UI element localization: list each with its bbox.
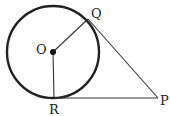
- label-q: Q: [91, 6, 102, 21]
- center-point: [50, 49, 56, 55]
- segment-or: [53, 52, 54, 98]
- label-r: R: [49, 102, 60, 116]
- segment-oq: [53, 19, 88, 52]
- label-p: P: [160, 93, 169, 108]
- label-o: O: [36, 42, 47, 57]
- geometry-diagram: O Q R P: [0, 0, 170, 116]
